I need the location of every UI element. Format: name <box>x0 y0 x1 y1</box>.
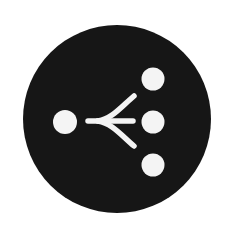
branch-split-icon: Split / branch into multiple outputs <box>0 0 229 237</box>
target-node-dot-bottom <box>142 154 165 177</box>
source-node-dot <box>53 110 77 134</box>
target-node-dot-middle <box>142 111 165 134</box>
branch-split-icon-graphic <box>0 0 229 237</box>
target-node-dot-top <box>142 68 165 91</box>
